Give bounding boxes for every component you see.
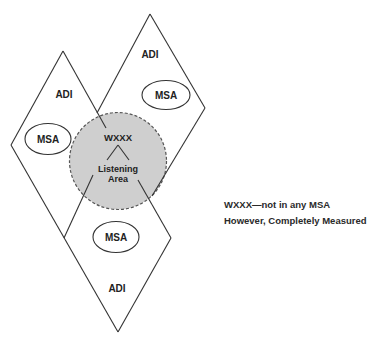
msa-label-bottom: MSA (105, 232, 127, 243)
note-not-in-msa: WXXX—not in any MSA (224, 199, 330, 210)
listening-area-label-line1: Listening (98, 164, 138, 174)
market-overlap-diagram: ADI ADI ADI MSA MSA MSA WXXX Listening A… (0, 0, 371, 345)
station-call-sign: WXXX (104, 132, 133, 143)
msa-label-right: MSA (155, 90, 177, 101)
bottom-adi-edge (118, 238, 171, 332)
note-completely-measured: However, Completely Measured (224, 215, 367, 226)
listening-area-label-line2: Area (108, 174, 129, 184)
adi-label-bottom: ADI (108, 283, 125, 294)
msa-label-left: MSA (37, 134, 59, 145)
adi-label-right: ADI (141, 49, 158, 60)
adi-label-left: ADI (55, 89, 72, 100)
